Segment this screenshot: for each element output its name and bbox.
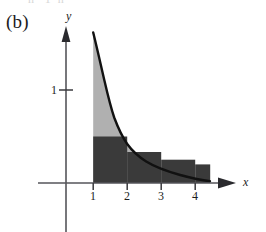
x-tick-label-4: 4 [188, 190, 202, 202]
y-axis-label: y [66, 10, 71, 22]
x-tick-marks-group [93, 183, 195, 190]
x-axis-label: x [243, 176, 248, 188]
y-axis-arrowhead [62, 26, 71, 42]
x-tick-label-2: 2 [120, 190, 134, 202]
riemann-rectangles-group [93, 137, 210, 184]
y-tick-label-1: 1 [45, 84, 57, 96]
x-tick-label-3: 3 [154, 190, 168, 202]
x-tick-label-1: 1 [86, 190, 100, 202]
figure-panel-b: n=1 n (b) y x 1 [0, 0, 266, 232]
x-axis-arrowhead [218, 178, 236, 189]
riemann-rect-1 [93, 137, 127, 184]
